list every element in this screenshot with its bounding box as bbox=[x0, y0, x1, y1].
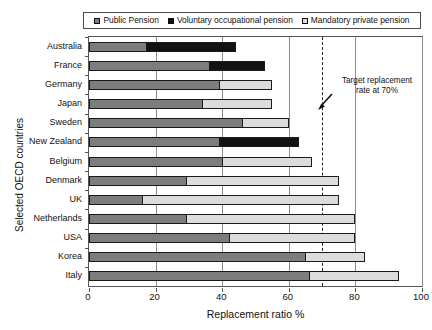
x-axis-tick-label-20: 20 bbox=[140, 291, 170, 302]
bar-segment-mandatory-private-pension[interactable] bbox=[222, 157, 312, 167]
legend-swatch-public-pension-icon bbox=[94, 18, 100, 24]
y-axis-tick bbox=[85, 133, 89, 134]
stacked-bar[interactable] bbox=[89, 157, 312, 167]
y-axis-tick bbox=[85, 171, 89, 172]
bar-segment-voluntary-occupational-pension[interactable] bbox=[219, 137, 299, 147]
y-axis-label-uk: UK bbox=[4, 194, 82, 204]
bar-row[interactable] bbox=[89, 214, 422, 224]
y-axis-label-germany: Germany bbox=[4, 79, 82, 89]
bar-row[interactable] bbox=[89, 195, 422, 205]
y-axis-tick bbox=[85, 248, 89, 249]
legend-label-voluntary-occupational-pension: Voluntary occupational pension bbox=[177, 16, 293, 25]
bar-segment-public-pension[interactable] bbox=[89, 233, 229, 243]
y-axis-tick bbox=[85, 190, 89, 191]
y-axis-label-belgium: Belgium bbox=[4, 156, 82, 166]
bar-segment-mandatory-private-pension[interactable] bbox=[305, 252, 365, 262]
y-axis-label-italy: Italy bbox=[4, 270, 82, 280]
bar-segment-voluntary-occupational-pension[interactable] bbox=[209, 61, 266, 71]
bar-row[interactable] bbox=[89, 252, 422, 262]
chart-legend: Public Pension Voluntary occupational pe… bbox=[83, 12, 421, 29]
stacked-bar[interactable] bbox=[89, 214, 355, 224]
bar-row[interactable] bbox=[89, 233, 422, 243]
target-annotation-line1: Target replacement bbox=[329, 76, 425, 86]
bar-segment-public-pension[interactable] bbox=[89, 214, 186, 224]
legend-swatch-mandatory-private-pension-icon bbox=[302, 18, 308, 24]
y-axis-tick bbox=[85, 152, 89, 153]
x-axis-tick-label-0: 0 bbox=[73, 291, 103, 302]
y-axis-label-denmark: Denmark bbox=[4, 175, 82, 185]
bar-segment-mandatory-private-pension[interactable] bbox=[219, 80, 272, 90]
x-axis-tick-label-40: 40 bbox=[206, 291, 236, 302]
y-axis-tick bbox=[85, 267, 89, 268]
bar-segment-public-pension[interactable] bbox=[89, 42, 146, 52]
stacked-bar[interactable] bbox=[89, 80, 272, 90]
stacked-bar[interactable] bbox=[89, 195, 339, 205]
y-axis-tick bbox=[85, 37, 89, 38]
y-axis-label-new-zealand: New Zealand bbox=[4, 136, 82, 146]
stacked-bar[interactable] bbox=[89, 61, 265, 71]
y-axis-label-france: France bbox=[4, 60, 82, 70]
bar-rows bbox=[89, 37, 422, 286]
bar-row[interactable] bbox=[89, 99, 422, 109]
bar-segment-public-pension[interactable] bbox=[89, 157, 222, 167]
legend-item-voluntary-occupational-pension: Voluntary occupational pension bbox=[168, 16, 293, 25]
y-axis-label-japan: Japan bbox=[4, 98, 82, 108]
bar-segment-mandatory-private-pension[interactable] bbox=[202, 99, 272, 109]
stacked-bar[interactable] bbox=[89, 118, 289, 128]
stacked-bar[interactable] bbox=[89, 271, 399, 281]
bar-segment-public-pension[interactable] bbox=[89, 271, 309, 281]
stacked-bar[interactable] bbox=[89, 233, 355, 243]
legend-item-public-pension: Public Pension bbox=[94, 16, 158, 25]
bar-segment-public-pension[interactable] bbox=[89, 99, 202, 109]
stacked-bar[interactable] bbox=[89, 176, 339, 186]
bar-row[interactable] bbox=[89, 42, 422, 52]
bar-segment-public-pension[interactable] bbox=[89, 61, 209, 71]
bar-segment-public-pension[interactable] bbox=[89, 176, 186, 186]
legend-swatch-voluntary-occupational-pension-icon bbox=[168, 18, 174, 24]
stacked-bar[interactable] bbox=[89, 42, 236, 52]
legend-label-public-pension: Public Pension bbox=[103, 16, 158, 25]
bar-row[interactable] bbox=[89, 271, 422, 281]
bar-segment-public-pension[interactable] bbox=[89, 118, 242, 128]
bar-segment-public-pension[interactable] bbox=[89, 80, 219, 90]
replacement-ratio-chart: Public Pension Voluntary occupational pe… bbox=[0, 0, 432, 330]
bar-segment-voluntary-occupational-pension[interactable] bbox=[146, 42, 236, 52]
legend-item-mandatory-private-pension: Mandatory private pension bbox=[302, 16, 410, 25]
y-axis-label-netherlands: Netherlands bbox=[4, 213, 82, 223]
x-axis-tick-label-100: 100 bbox=[406, 291, 432, 302]
y-axis-label-usa: USA bbox=[4, 232, 82, 242]
y-axis-label-korea: Korea bbox=[4, 251, 82, 261]
bar-segment-public-pension[interactable] bbox=[89, 252, 305, 262]
x-axis-tick-label-80: 80 bbox=[339, 291, 369, 302]
stacked-bar[interactable] bbox=[89, 252, 365, 262]
y-axis-label-sweden: Sweden bbox=[4, 117, 82, 127]
gridline-100 bbox=[422, 37, 423, 286]
y-axis-tick bbox=[85, 114, 89, 115]
bar-segment-public-pension[interactable] bbox=[89, 137, 219, 147]
annotation-arrow-icon bbox=[316, 93, 334, 111]
bar-row[interactable] bbox=[89, 61, 422, 71]
x-axis-tick-label-60: 60 bbox=[273, 291, 303, 302]
target-annotation-line2: rate at 70% bbox=[329, 86, 425, 96]
stacked-bar[interactable] bbox=[89, 99, 272, 109]
bar-segment-mandatory-private-pension[interactable] bbox=[186, 176, 339, 186]
bar-segment-mandatory-private-pension[interactable] bbox=[242, 118, 289, 128]
target-annotation: Target replacement rate at 70% bbox=[329, 76, 425, 95]
y-axis-tick bbox=[85, 75, 89, 76]
y-axis-tick bbox=[85, 94, 89, 95]
bar-row[interactable] bbox=[89, 137, 422, 147]
y-axis-tick bbox=[85, 229, 89, 230]
plot-area bbox=[88, 36, 423, 287]
bar-segment-public-pension[interactable] bbox=[89, 195, 142, 205]
y-axis-tick bbox=[85, 209, 89, 210]
bar-segment-mandatory-private-pension[interactable] bbox=[142, 195, 338, 205]
bar-segment-mandatory-private-pension[interactable] bbox=[229, 233, 356, 243]
bar-row[interactable] bbox=[89, 118, 422, 128]
bar-row[interactable] bbox=[89, 157, 422, 167]
stacked-bar[interactable] bbox=[89, 137, 299, 147]
bar-segment-mandatory-private-pension[interactable] bbox=[186, 214, 356, 224]
y-axis-tick bbox=[85, 56, 89, 57]
y-axis-label-australia: Australia bbox=[4, 41, 82, 51]
bar-segment-mandatory-private-pension[interactable] bbox=[309, 271, 399, 281]
bar-row[interactable] bbox=[89, 176, 422, 186]
